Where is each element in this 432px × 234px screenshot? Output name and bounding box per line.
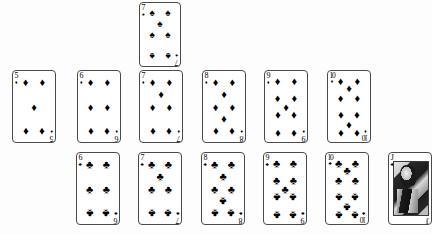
card-pip-field: ♦♦♦♦♦♦♦♦ — [209, 74, 239, 139]
card-suit-pip: ♣ — [228, 208, 235, 219]
card-suit-pip: ♣ — [156, 171, 163, 182]
card-suit-pip: ♦ — [213, 101, 219, 112]
card-rank-label: 5 — [50, 133, 54, 141]
card-suit-pip: ♦ — [88, 101, 94, 112]
card-suit-pip: ♣ — [335, 175, 342, 186]
playing-card[interactable]: 8♦8♦♦♦♦♦♦♦♦♦ — [202, 70, 246, 143]
card-suit-pip: ♦ — [292, 75, 298, 86]
card-suit-pip: ♣ — [273, 175, 280, 186]
card-suit-icon: ♣ — [79, 163, 82, 167]
card-rank-label: 6 — [114, 215, 118, 223]
card-suit-icon: ♣ — [114, 211, 117, 215]
card-suit-pip: ♦ — [158, 89, 164, 100]
card-corner-index: 5♦ — [15, 72, 19, 85]
card-suit-pip: ♦ — [275, 109, 281, 120]
court-card-frame — [393, 161, 429, 216]
card-corner-index: 8♦ — [240, 129, 244, 142]
card-pip-field: ♣♣♣♣♣♣♣♣ — [208, 156, 238, 221]
card-suit-pip: ♦ — [292, 109, 298, 120]
card-suit-pip: ♣ — [290, 209, 297, 220]
card-rank-label: 7 — [141, 154, 145, 162]
card-suit-pip: ♦ — [88, 76, 94, 87]
card-rank-label: 8 — [204, 154, 208, 162]
playing-card[interactable]: 10♦10♦♦♦♦♦♦♦♦♦♦♦ — [327, 70, 371, 143]
card-suit-pip: ♦ — [346, 119, 352, 130]
card-rank-label: 6 — [115, 133, 119, 141]
card-suit-icon: ♦ — [267, 81, 270, 85]
card-corner-index: 6♦ — [115, 129, 119, 142]
card-pip-field: ♦♦♦♦♦♦♦♦♦♦ — [334, 74, 364, 139]
card-suit-pip: ♠ — [165, 8, 170, 18]
card-corner-index: 7♣ — [141, 154, 145, 167]
card-suit-pip: ♦ — [150, 101, 156, 112]
card-suit-pip: ♦ — [31, 101, 37, 112]
card-suit-pip: ♦ — [167, 126, 173, 137]
card-rank-label: 7 — [176, 215, 180, 223]
card-suit-pip: ♣ — [219, 195, 226, 206]
card-pip-field: ♠♠♠♠♠♠♠ — [146, 6, 174, 63]
playing-card[interactable]: 7♦7♦♦♦♦♦♦♦♦ — [139, 70, 183, 143]
card-suit-pip: ♠ — [165, 51, 170, 61]
card-corner-index: 9♦ — [267, 72, 271, 85]
card-pip-field: ♣♣♣♣♣♣♣ — [145, 156, 175, 221]
card-suit-pip: ♦ — [23, 126, 29, 137]
card-suit-pip: ♣ — [343, 165, 350, 176]
card-pip-field: ♣♣♣♣♣♣♣♣♣ — [270, 156, 300, 221]
card-suit-pip: ♣ — [211, 208, 218, 219]
card-suit-pip: ♠ — [157, 19, 162, 29]
card-suit-pip: ♦ — [292, 127, 298, 138]
card-rank-label: 5 — [15, 72, 19, 80]
card-suit-pip: ♣ — [228, 183, 235, 194]
playing-card[interactable]: 7♣7♣♣♣♣♣♣♣♣ — [138, 152, 182, 225]
card-suit-icon: ♦ — [331, 80, 334, 84]
card-suit-pip: ♣ — [103, 208, 110, 219]
card-suit-pip: ♣ — [290, 157, 297, 168]
card-corner-index: 9♦ — [302, 129, 306, 142]
card-suit-pip: ♣ — [86, 183, 93, 194]
card-pip-field: ♦♦♦♦♦♦ — [84, 74, 114, 139]
card-corner-index: 10♣ — [361, 211, 366, 223]
playing-card[interactable]: 6♣6♣♣♣♣♣♣♣ — [76, 152, 120, 225]
card-suit-pip: ♣ — [86, 158, 93, 169]
card-suit-pip: ♣ — [165, 208, 172, 219]
card-rank-label: 9 — [267, 72, 271, 80]
card-suit-pip: ♠ — [150, 30, 155, 40]
card-suit-pip: ♦ — [283, 101, 289, 112]
playing-card[interactable]: 10♣10♣♣♣♣♣♣♣♣♣♣♣ — [325, 152, 369, 225]
card-suit-icon: ♣ — [176, 211, 179, 215]
card-suit-pip: ♦ — [213, 126, 219, 137]
card-suit-pip: ♣ — [335, 191, 342, 202]
card-suit-pip: ♦ — [355, 109, 361, 120]
card-suit-pip: ♠ — [150, 51, 155, 61]
card-suit-pip: ♦ — [221, 113, 227, 124]
card-suit-icon: ♦ — [50, 129, 53, 133]
playing-card[interactable]: 9♣9♣♣♣♣♣♣♣♣♣♣ — [263, 152, 307, 225]
card-pip-field: ♦♦♦♦♦ — [19, 74, 49, 139]
playing-card[interactable]: 5♦5♦♦♦♦♦♦ — [12, 70, 56, 143]
card-suit-pip: ♣ — [335, 209, 342, 220]
card-suit-icon: ♦ — [302, 129, 305, 133]
playing-card[interactable]: 6♦6♦♦♦♦♦♦♦ — [77, 70, 121, 143]
card-suit-pip: ♣ — [352, 209, 359, 220]
card-corner-index: 6♣ — [79, 154, 83, 167]
playing-card[interactable]: J♣J♣ — [388, 152, 432, 225]
playing-card[interactable]: 8♣8♣♣♣♣♣♣♣♣♣ — [201, 152, 245, 225]
playing-card[interactable]: 9♦9♦♦♦♦♦♦♦♦♦♦ — [264, 70, 308, 143]
card-suit-icon: ♦ — [142, 81, 145, 85]
card-suit-pip: ♣ — [273, 191, 280, 202]
card-suit-icon: ♣ — [141, 163, 144, 167]
card-rank-label: 10 — [361, 216, 366, 224]
card-rank-label: 10 — [363, 134, 368, 142]
card-suit-pip: ♣ — [103, 158, 110, 169]
card-suit-icon: ♣ — [204, 163, 207, 167]
card-corner-index: 6♣ — [114, 211, 118, 224]
card-suit-icon: ♦ — [205, 81, 208, 85]
card-rank-label: 7 — [142, 72, 146, 80]
card-suit-pip: ♦ — [23, 76, 29, 87]
card-suit-pip: ♣ — [165, 158, 172, 169]
card-suit-icon: ♦ — [80, 81, 83, 85]
card-suit-icon: ♠ — [142, 13, 145, 17]
card-suit-pip: ♦ — [40, 76, 46, 87]
playing-card[interactable]: 7♠7♠♠♠♠♠♠♠♠ — [139, 2, 181, 67]
